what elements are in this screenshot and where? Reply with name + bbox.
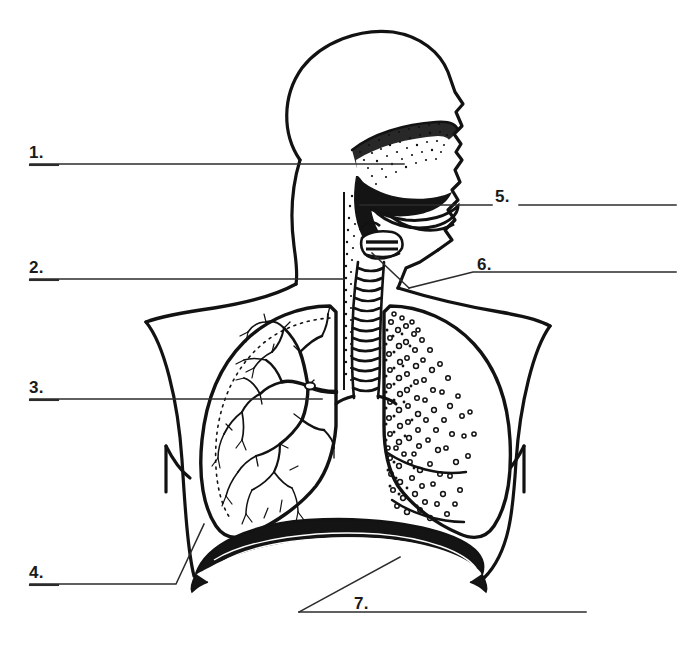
label-number-5[interactable]: 5. [495, 188, 510, 205]
worksheet-page: 1. 2. 3. 4. 5. 6. 7. [0, 0, 685, 650]
label-number-6[interactable]: 6. [477, 256, 492, 273]
label-number-7[interactable]: 7. [354, 595, 369, 612]
leader-line-4 [30, 524, 204, 584]
leader-line-6b [409, 272, 676, 288]
lung-alveoli [384, 306, 510, 537]
lung-bronchial-tree [201, 306, 336, 537]
label-number-3[interactable]: 3. [29, 379, 44, 396]
shoulders-and-torso [146, 284, 550, 326]
label-number-4[interactable]: 4. [29, 564, 44, 581]
answer-blank-underlines [30, 165, 58, 585]
leader-line-7a [299, 557, 400, 612]
label-number-2[interactable]: 2. [29, 259, 44, 276]
label-number-1[interactable]: 1. [29, 144, 44, 161]
trachea [352, 262, 384, 398]
nasal-cavity [352, 122, 458, 185]
respiratory-system-diagram [0, 0, 685, 650]
